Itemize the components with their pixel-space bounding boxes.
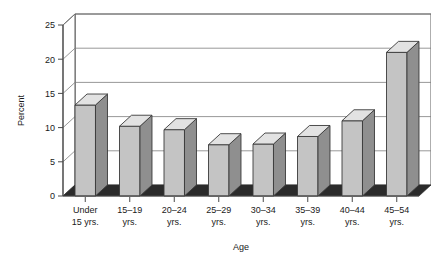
bar-front-4: [253, 144, 273, 196]
bar-front-7: [387, 52, 407, 196]
bar-side-6: [362, 110, 374, 196]
xtick-label-2-line0: 20–24: [162, 205, 187, 215]
xtick-label-4-line1: yrs.: [256, 217, 271, 227]
bar-side-5: [318, 125, 330, 196]
bar-side-0: [95, 94, 107, 196]
chart-floor: [63, 185, 431, 196]
y-axis-title: Percent: [16, 94, 26, 126]
xtick-label-3-line0: 25–29: [206, 205, 231, 215]
ytick-label-15: 15: [45, 89, 55, 99]
xtick-label-4-line0: 30–34: [251, 205, 276, 215]
bar-front-1: [120, 126, 140, 196]
xtick-label-7-line1: yrs.: [390, 217, 405, 227]
x-axis-title: Age: [233, 242, 249, 252]
ytick-label-25: 25: [45, 20, 55, 30]
bar-side-2: [184, 119, 196, 196]
bar-front-5: [298, 136, 318, 196]
chart-left-wall: [63, 14, 75, 196]
xtick-label-6-line1: yrs.: [345, 217, 360, 227]
bar-front-0: [75, 105, 95, 196]
ytick-label-5: 5: [50, 157, 55, 167]
xtick-label-0-line1: 15 yrs.: [72, 217, 99, 227]
xtick-label-1-line0: 15–19: [117, 205, 142, 215]
bar-front-6: [342, 121, 362, 196]
xtick-label-6-line0: 40–44: [340, 205, 365, 215]
xtick-label-7-line0: 45–54: [384, 205, 409, 215]
xtick-label-5-line1: yrs.: [301, 217, 316, 227]
ytick-label-20: 20: [45, 55, 55, 65]
bar-side-1: [140, 115, 152, 196]
bar-front-2: [164, 130, 184, 196]
xtick-label-5-line0: 35–39: [295, 205, 320, 215]
bar-chart: 0510152025Under15 yrs.15–19yrs.20–24yrs.…: [0, 0, 431, 265]
bar-front-3: [209, 145, 229, 196]
xtick-label-3-line1: yrs.: [212, 217, 227, 227]
bar-side-7: [407, 41, 419, 196]
ytick-label-10: 10: [45, 123, 55, 133]
ytick-label-0: 0: [50, 191, 55, 201]
xtick-label-2-line1: yrs.: [167, 217, 182, 227]
xtick-label-0-line0: Under: [73, 205, 98, 215]
chart-canvas: 0510152025Under15 yrs.15–19yrs.20–24yrs.…: [0, 0, 431, 265]
xtick-label-1-line1: yrs.: [123, 217, 138, 227]
